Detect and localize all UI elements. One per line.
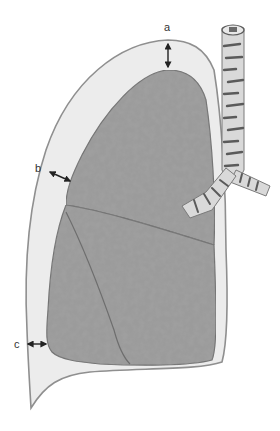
- trachea: [222, 25, 244, 178]
- label-c: c: [14, 339, 20, 350]
- lung-illustration: [0, 0, 280, 431]
- bronchus-right: [230, 170, 270, 196]
- label-a: a: [164, 22, 170, 33]
- label-b: b: [35, 163, 41, 174]
- lung-diagram: a b c: [0, 0, 280, 431]
